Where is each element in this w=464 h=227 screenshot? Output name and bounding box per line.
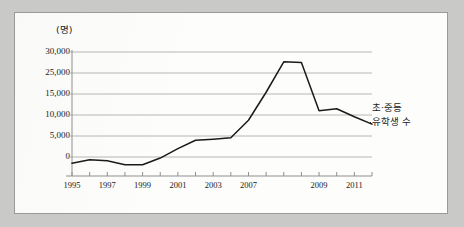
series-annotation-line-2: 유학생 수	[372, 115, 411, 129]
line-chart: (명) 30,00025,00015,00010,0005,0000 19951…	[0, 0, 464, 227]
series-annotation: 초·중등 유학생 수	[372, 101, 411, 128]
series-annotation-line-1: 초·중등	[372, 101, 411, 115]
figure-page: (명) 30,00025,00015,00010,0005,0000 19951…	[0, 0, 464, 227]
